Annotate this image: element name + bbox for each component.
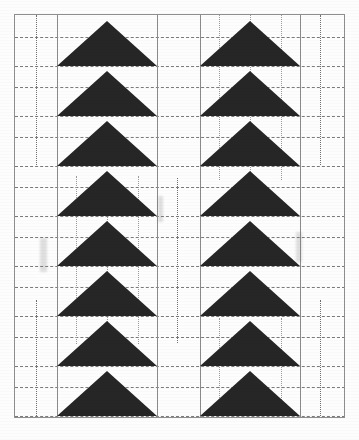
page-border: [14, 14, 345, 418]
scanned-pattern-canvas: [0, 0, 359, 440]
